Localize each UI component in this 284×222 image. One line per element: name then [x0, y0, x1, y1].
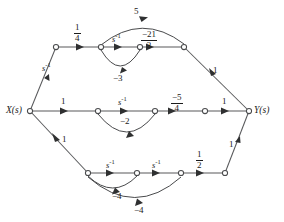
gain-label-top-integrator: s-1: [112, 33, 121, 43]
node-mid-1: [95, 108, 100, 113]
gain-label-x-to-top: s-1: [42, 62, 51, 72]
gain-label-bottom-out: 1: [229, 140, 234, 149]
gain-label-bottom-loop-2: −4: [134, 206, 144, 215]
arrowhead-bottom-to-y: [235, 136, 241, 143]
node-mid-2: [152, 108, 157, 113]
gain-label-top-quarter: 1 4: [74, 23, 81, 43]
arrowhead-x-to-bottom: [52, 133, 60, 142]
arc-top-feedback-3: [101, 50, 140, 66]
gain-label-bottom-half: 1 2: [196, 150, 203, 170]
node-input: [27, 108, 32, 113]
node-bottom-2: [178, 170, 183, 175]
gain-label-bottom-in: 1: [62, 135, 67, 144]
arrowhead-mid-1-2: [120, 107, 128, 114]
signal-flow-graph-figure: X(s) Y(s) s-1 1 4 s-1 −21 3 5 −3 1 1 s-1…: [0, 0, 284, 222]
arrowhead-top-1-2: [114, 43, 122, 50]
node-output: [246, 108, 251, 113]
gain-label-bottom-loop-1: −4: [112, 192, 122, 201]
edge-x-to-bottom: [30, 111, 88, 173]
edge-top-to-y: [184, 47, 249, 111]
node-bottom-0: [85, 170, 90, 175]
gain-label-mid-integrator: s-1: [118, 96, 127, 106]
gain-label-mid-in: 1: [61, 97, 66, 106]
gain-label-mid-right: −5 4: [171, 93, 183, 113]
gain-label-mid-out: 1: [222, 97, 227, 106]
node-top-0: [53, 44, 58, 49]
node-bottom-3: [222, 170, 227, 175]
gain-label-top-out: 1: [213, 66, 218, 75]
node-mid-3: [202, 108, 207, 113]
arrowhead-arc-top-5: [139, 16, 148, 22]
gain-label-bottom-integrator-2: s-1: [152, 159, 161, 169]
node-top-1: [98, 44, 103, 49]
node-bottom-1: [134, 170, 139, 175]
arc-bottom-feedback-4b: [88, 177, 181, 198]
gain-label-bottom-integrator-1: s-1: [106, 159, 115, 169]
gain-label-top-arc: 5: [134, 7, 139, 16]
arc-bottom-feedback-4a: [88, 176, 137, 188]
arrowhead-bottom-0-1: [106, 169, 114, 176]
edge-x-to-top: [30, 47, 56, 111]
gain-label-top-loop: −3: [113, 74, 123, 83]
output-label: Y(s): [254, 106, 269, 116]
arrowhead-x-to-mid: [60, 107, 68, 114]
arrowhead-bottom-2-3: [196, 169, 204, 176]
gain-label-mid-loop: −2: [120, 117, 130, 126]
arrowhead-mid-to-y: [221, 107, 229, 114]
node-top-3: [181, 44, 186, 49]
arrowhead-bottom-1-2: [152, 169, 160, 176]
arrowhead-top-0-1: [76, 43, 84, 50]
gain-label-top-right: −21 3: [141, 30, 157, 50]
input-label: X(s): [6, 106, 22, 116]
